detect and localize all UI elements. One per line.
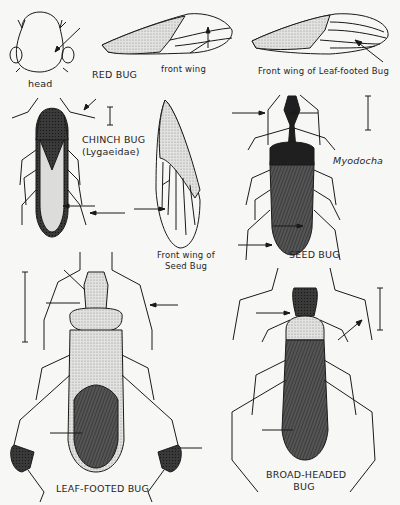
label-seed-bug: SEED BUG [289,249,340,260]
broad-headed-bug-figure [232,268,383,492]
red-bug-front-wing-figure [102,14,232,54]
seed-bug-front-wing-figure [134,100,200,248]
label-head: head [28,78,53,89]
label-front-wing: front wing [161,64,206,74]
label-red-bug: RED BUG [92,69,137,80]
leaf-footed-bug-front-wing-figure [252,14,388,62]
label-myodocha: Myodocha [333,155,383,166]
insect-plate: head RED BUG front wing Front wing of Le… [0,0,400,505]
label-broad-headed-bug-line2: BUG [266,481,342,493]
leaf-footed-bug-figure [11,252,202,502]
label-broad-headed-bug: BROAD-HEADED BUG [266,469,342,493]
seed-bug-myodocha-figure [232,95,371,260]
label-front-wing-seed-bug-line1: Front wing of [150,250,222,261]
label-chinch-bug-family: (Lygaeidae) [82,146,140,157]
red-bug-head-figure [10,12,80,72]
label-front-wing-seed-bug: Front wing of Seed Bug [150,250,222,272]
label-leaf-footed-bug: LEAF-FOOTED BUG [56,483,149,494]
label-front-wing-leaf-footed: Front wing of Leaf-footed Bug [258,66,389,76]
label-front-wing-seed-bug-line2: Seed Bug [150,261,222,272]
chinch-bug-figure [12,98,125,237]
label-chinch-bug: CHINCH BUG [82,134,145,145]
label-broad-headed-bug-line1: BROAD-HEADED [266,469,342,481]
